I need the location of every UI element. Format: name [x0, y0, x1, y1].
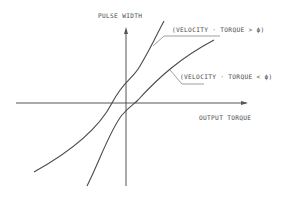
y-axis-arrow-icon	[124, 27, 128, 34]
upper-curve-leader	[153, 36, 220, 46]
x-axis-arrow-icon	[241, 101, 248, 105]
upper-curve-label: (VELOCITY · TORQUE > ϕ)	[172, 26, 265, 34]
lower-curve-label: (VELOCITY · TORQUE < ϕ)	[180, 73, 273, 81]
pulse-width-diagram: PULSE WIDTH (VELOCITY · TORQUE > ϕ) (VEL…	[0, 0, 287, 199]
y-axis-label: PULSE WIDTH	[98, 12, 142, 19]
upper-curve	[34, 21, 164, 172]
x-axis-label: OUTPUT TORQUE	[199, 114, 251, 121]
